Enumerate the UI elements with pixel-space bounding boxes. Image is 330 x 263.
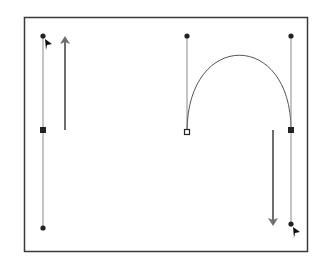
end-anchor-point: [288, 127, 294, 133]
diagram-frame: [25, 18, 308, 252]
start-anchor-point: [185, 130, 190, 135]
end-handle-top-point: [288, 33, 293, 38]
bezier-diagram: [0, 0, 330, 263]
left-handle-bottom-point: [40, 225, 45, 230]
start-handle-point: [184, 33, 189, 38]
end-handle-bottom-point: [288, 221, 293, 226]
left-anchor-point: [40, 127, 46, 133]
left-handle-top-point: [40, 33, 45, 38]
